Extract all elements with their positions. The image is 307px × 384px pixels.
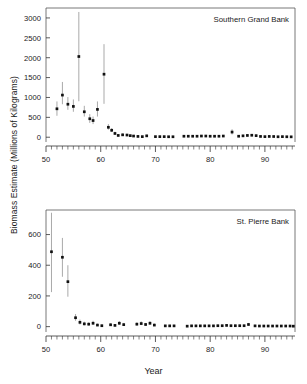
y-tick-label: 2500 (24, 34, 41, 43)
data-point (191, 135, 194, 138)
data-point (209, 135, 212, 138)
data-point (255, 134, 258, 137)
panel-southern-grand-bank: 0500100015002000250030005060708090Southe… (0, 0, 307, 180)
data-point (267, 325, 270, 328)
data-point (221, 324, 224, 327)
data-point (242, 134, 245, 137)
y-tick-label: 1000 (24, 93, 41, 102)
data-point (168, 325, 171, 328)
data-point (277, 135, 280, 138)
data-point (243, 324, 246, 327)
data-point (103, 73, 106, 76)
data-point (88, 117, 91, 120)
y-tick-label: 600 (28, 230, 41, 239)
data-point (290, 135, 293, 138)
y-tick-label: 3000 (24, 14, 41, 23)
data-point (107, 126, 110, 129)
x-tick-label: 70 (151, 345, 159, 354)
data-point (246, 134, 249, 137)
y-tick-label: 0 (37, 133, 41, 142)
data-point (234, 324, 237, 327)
data-point (208, 325, 211, 328)
data-point (247, 323, 250, 326)
data-point (173, 325, 176, 328)
data-point (122, 323, 125, 326)
data-series (56, 12, 293, 138)
data-point (212, 325, 215, 328)
data-point (67, 103, 70, 106)
data-point (231, 131, 234, 134)
data-series (50, 213, 295, 328)
data-point (264, 135, 267, 138)
data-point (230, 324, 233, 327)
data-point (237, 135, 240, 138)
data-point (158, 135, 161, 138)
data-point (213, 135, 216, 138)
data-point (141, 135, 144, 138)
data-point (262, 325, 265, 328)
data-point (292, 325, 295, 328)
y-tick-label: 2000 (24, 54, 41, 63)
data-point (222, 135, 225, 138)
data-point (172, 135, 175, 138)
data-point (272, 135, 275, 138)
y-tick-label: 400 (28, 261, 41, 270)
data-point (100, 324, 103, 327)
data-point (289, 325, 292, 328)
data-point (149, 322, 152, 325)
data-point (164, 325, 167, 328)
data-point (238, 324, 241, 327)
data-point (87, 323, 90, 326)
data-point (204, 135, 207, 138)
data-point (72, 105, 75, 108)
data-point (83, 110, 86, 113)
data-point (200, 135, 203, 138)
data-point (144, 323, 147, 326)
data-point (92, 322, 95, 325)
data-point (216, 324, 219, 327)
data-point (96, 324, 99, 327)
data-point (153, 324, 156, 327)
x-axis-label: Year (0, 366, 307, 376)
data-point (276, 325, 279, 328)
data-point (56, 107, 59, 110)
data-point (117, 134, 120, 137)
data-point (203, 325, 206, 328)
data-point (77, 55, 80, 58)
y-tick-label: 200 (28, 292, 41, 301)
x-tick-label: 50 (42, 345, 50, 354)
data-point (50, 250, 53, 253)
plot-frame (46, 210, 295, 332)
data-point (183, 135, 186, 138)
data-point (163, 135, 166, 138)
data-point (114, 132, 117, 135)
data-point (154, 135, 157, 138)
x-tick-label: 60 (96, 155, 104, 164)
data-point (110, 129, 113, 132)
data-point (281, 135, 284, 138)
data-point (250, 134, 253, 137)
data-point (126, 134, 129, 137)
x-tick-label: 60 (96, 345, 104, 354)
data-point (268, 135, 271, 138)
x-tick-label: 80 (206, 155, 214, 164)
data-point (74, 316, 77, 319)
data-point (67, 280, 70, 283)
data-point (218, 135, 221, 138)
data-point (109, 323, 112, 326)
data-point (186, 325, 189, 328)
data-point (137, 135, 140, 138)
data-point (92, 119, 95, 122)
y-tick-label: 0 (37, 322, 41, 331)
figure: Biomass Estimate (Millions of Kilograms)… (0, 0, 307, 384)
x-tick-label: 80 (206, 345, 214, 354)
x-tick-label: 90 (261, 155, 269, 164)
panel-title: St. Pierre Bank (237, 217, 290, 226)
data-point (196, 135, 199, 138)
y-tick-label: 1500 (24, 73, 41, 82)
data-point (96, 108, 99, 111)
data-point (79, 321, 82, 324)
data-point (129, 134, 132, 137)
plot-area: 0500100015002000250030005060708090Southe… (0, 0, 307, 180)
data-point (280, 325, 283, 328)
